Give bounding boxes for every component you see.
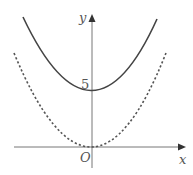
- origin-label: O: [80, 150, 91, 165]
- y-intercept-label: 5: [81, 77, 89, 92]
- graph: y x O 5: [0, 0, 193, 175]
- dashed-parabola: [14, 53, 166, 147]
- y-axis-arrow-icon: [89, 14, 96, 22]
- x-axis-arrow-icon: [178, 144, 186, 151]
- y-axis-label: y: [78, 10, 87, 25]
- solid-parabola: [23, 17, 157, 91]
- x-axis-label: x: [179, 152, 187, 167]
